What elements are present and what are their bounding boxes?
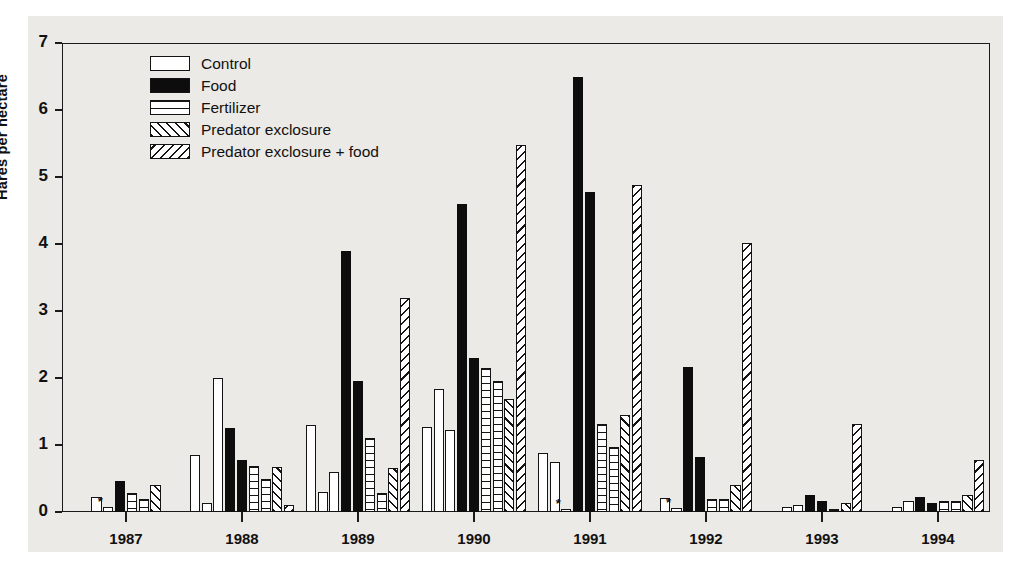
y-tick-label: 3 xyxy=(18,300,48,320)
y-tick-mark xyxy=(55,377,62,379)
bar xyxy=(213,378,223,512)
bar xyxy=(139,499,149,512)
bar xyxy=(609,447,619,512)
bar xyxy=(573,77,583,513)
x-tick-label: 1991 xyxy=(550,530,630,547)
y-tick-label: 5 xyxy=(18,166,48,186)
bar xyxy=(829,509,839,512)
significance-asterisk: * xyxy=(556,497,561,510)
bar xyxy=(493,381,503,512)
y-tick-label: 7 xyxy=(18,32,48,52)
bar xyxy=(793,505,803,512)
bar xyxy=(620,415,630,512)
x-tick-mark xyxy=(589,512,591,522)
bar xyxy=(434,389,444,512)
y-tick-mark xyxy=(55,511,62,513)
legend-item: Fertilizer xyxy=(150,97,379,118)
legend-swatch-solid-black xyxy=(150,78,190,93)
x-tick-mark xyxy=(125,512,127,522)
x-tick-mark xyxy=(937,512,939,522)
bar xyxy=(817,501,827,512)
legend-item: Predator exclosure xyxy=(150,119,379,140)
bar xyxy=(504,399,514,512)
plot-area: Hares per hectare 01234567 *** 198719881… xyxy=(0,0,1031,571)
bar xyxy=(318,492,328,512)
bar xyxy=(400,298,410,512)
bar xyxy=(597,424,607,512)
legend-label: Predator exclosure + food xyxy=(201,143,379,161)
legend-item: Food xyxy=(150,75,379,96)
figure-canvas: Hares per hectare 01234567 *** 198719881… xyxy=(0,0,1031,571)
bar xyxy=(150,485,160,512)
bar xyxy=(585,192,595,512)
bar xyxy=(272,467,282,512)
bar xyxy=(939,501,949,512)
bar xyxy=(719,499,729,512)
bar xyxy=(237,460,247,512)
legend-label: Fertilizer xyxy=(201,99,260,117)
y-tick-label: 0 xyxy=(18,501,48,521)
bar xyxy=(353,381,363,512)
bar xyxy=(469,358,479,512)
legend-label: Control xyxy=(201,55,251,73)
bar xyxy=(841,503,851,512)
bar xyxy=(329,472,339,512)
x-tick-mark xyxy=(241,512,243,522)
bar xyxy=(962,495,972,512)
bar xyxy=(127,493,137,512)
bar xyxy=(730,485,740,512)
y-tick-mark xyxy=(55,109,62,111)
y-tick-mark xyxy=(55,310,62,312)
legend-swatch-horizontal-lines xyxy=(150,100,190,115)
y-tick-label: 4 xyxy=(18,233,48,253)
bar xyxy=(341,251,351,512)
bar xyxy=(805,495,815,512)
x-tick-label: 1993 xyxy=(782,530,862,547)
x-tick-mark xyxy=(473,512,475,522)
legend-swatch-backward-diagonal-hatch xyxy=(150,144,190,159)
y-tick-mark xyxy=(55,176,62,178)
bar xyxy=(915,497,925,512)
y-tick-label: 1 xyxy=(18,434,48,454)
bar xyxy=(377,493,387,512)
legend: ControlFoodFertilizerPredator exclosureP… xyxy=(150,53,379,163)
y-tick-mark xyxy=(55,243,62,245)
legend-item: Control xyxy=(150,53,379,74)
bar xyxy=(707,499,717,512)
x-tick-mark xyxy=(705,512,707,522)
x-tick-mark xyxy=(357,512,359,522)
bar xyxy=(422,427,432,512)
bar xyxy=(115,481,125,512)
y-tick-label: 2 xyxy=(18,367,48,387)
x-tick-label: 1987 xyxy=(86,530,166,547)
bar xyxy=(365,438,375,512)
significance-asterisk: * xyxy=(98,495,103,508)
x-tick-label: 1989 xyxy=(318,530,398,547)
x-tick-label: 1988 xyxy=(202,530,282,547)
bar xyxy=(225,428,235,512)
bar xyxy=(261,479,271,513)
legend-swatch-white-open xyxy=(150,56,190,71)
y-tick-mark xyxy=(55,444,62,446)
legend-label: Predator exclosure xyxy=(201,121,331,139)
bar xyxy=(852,424,862,512)
bar xyxy=(974,460,984,512)
bar xyxy=(306,425,316,512)
y-axis-label: Hares per hectare xyxy=(0,0,10,200)
bar xyxy=(782,507,792,512)
y-tick-mark xyxy=(55,42,62,44)
bar xyxy=(927,503,937,512)
bar xyxy=(538,453,548,512)
bar xyxy=(284,505,294,512)
x-tick-label: 1990 xyxy=(434,530,514,547)
bar xyxy=(388,468,398,512)
bar xyxy=(695,457,705,512)
bar xyxy=(561,509,571,512)
y-tick-label: 6 xyxy=(18,99,48,119)
legend-label: Food xyxy=(201,77,236,95)
bar xyxy=(516,145,526,512)
bar xyxy=(632,185,642,512)
bar xyxy=(683,367,693,512)
x-tick-mark xyxy=(821,512,823,522)
legend-item: Predator exclosure + food xyxy=(150,141,379,162)
